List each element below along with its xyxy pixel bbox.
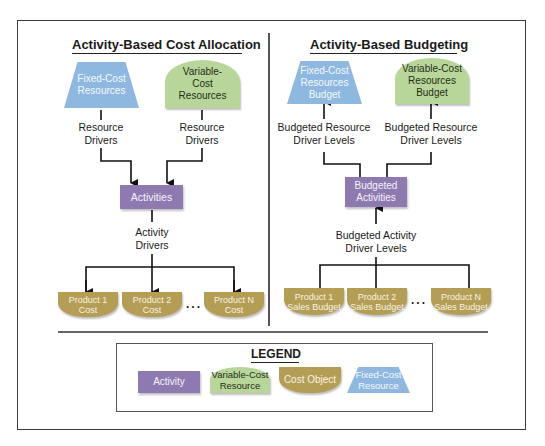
node-text: Resources <box>179 90 227 101</box>
activities-node: Activities <box>120 185 183 209</box>
resource-drivers-label-left: ResourceDrivers <box>71 121 131 147</box>
legend-variable-cost-resource: Variable-CostResource <box>210 367 270 393</box>
node-text: Resources <box>78 85 126 96</box>
variable-cost-resources-budget-node: Variable-CostResourcesBudget <box>395 58 469 104</box>
budgeted-activities-node: BudgetedActivities <box>345 177 407 207</box>
product-2-cost-node: Product 2Cost <box>122 292 182 317</box>
resource-drivers-label-right: ResourceDrivers <box>172 121 232 147</box>
variable-cost-resources-node: Variable-CostResources <box>165 60 240 108</box>
ellipsis: ... <box>186 297 202 311</box>
activity-drivers-label: ActivityDrivers <box>122 226 182 252</box>
product-n-cost-node: Product NCost <box>204 292 264 317</box>
legend-title: LEGEND <box>251 347 299 363</box>
product-2-sales-budget-node: Product 2Sales Budget <box>347 288 407 315</box>
product-n-sales-budget-node: Product NSales Budget <box>431 288 491 315</box>
budgeted-activity-levels: Budgeted ActivityDriver Levels <box>326 229 426 255</box>
left-panel-title: Activity-Based Cost Allocation <box>72 37 242 54</box>
node-text: Variable- <box>183 66 222 77</box>
node-text: Fixed-Cost <box>77 73 125 84</box>
node-text: Cost <box>192 78 213 89</box>
legend-activity: Activity <box>138 371 200 393</box>
legend-cost-object: Cost Object <box>279 367 341 393</box>
budgeted-resource-levels-right: Budgeted ResourceDriver Levels <box>381 121 481 147</box>
right-panel-title: Activity-Based Budgeting <box>310 37 457 54</box>
product-1-sales-budget-node: Product 1Sales Budget <box>284 288 344 315</box>
ellipsis: ... <box>411 293 427 307</box>
budgeted-resource-levels-left: Budgeted ResourceDriver Levels <box>274 121 374 147</box>
product-1-cost-node: Product 1Cost <box>58 292 118 317</box>
